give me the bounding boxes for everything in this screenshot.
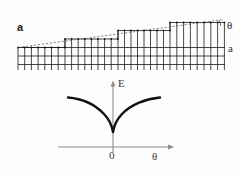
vicinal-surface-group: θ a xyxy=(17,19,233,70)
y-axis-label: E xyxy=(118,77,125,89)
miscut-angle-arc xyxy=(219,21,221,26)
y-axis-arrowhead xyxy=(111,81,116,87)
lattice-constant-label: a xyxy=(228,42,233,54)
miscut-angle-label: θ xyxy=(227,19,232,31)
surface-atoms xyxy=(17,22,225,49)
miscut-dashed-line xyxy=(18,20,224,48)
energy-cusp-curve xyxy=(68,98,160,133)
x-axis-label: θ xyxy=(152,150,157,162)
origin-label: 0 xyxy=(109,149,115,161)
figure-container: a xyxy=(0,0,240,172)
energy-plot-group: E θ 0 xyxy=(58,77,174,162)
figure-svg: θ a E θ 0 xyxy=(0,0,240,172)
lattice-grid xyxy=(18,23,225,71)
panel-label-a: a xyxy=(17,22,23,33)
x-axis-arrowhead xyxy=(168,145,174,150)
